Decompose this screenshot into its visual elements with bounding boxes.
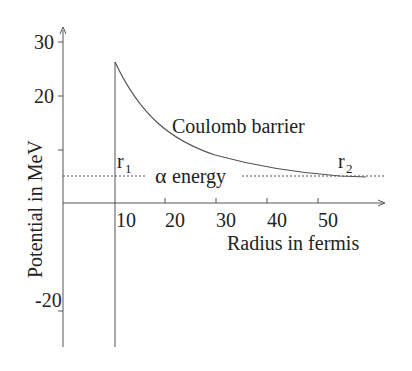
x-axis-title: Radius in fermis: [227, 232, 359, 254]
y-tick-label-30: 30: [34, 31, 54, 53]
y-tick-label-20: 20: [34, 85, 54, 107]
x-tick-label-40: 40: [267, 209, 287, 231]
x-tick-label-10: 10: [116, 209, 136, 231]
alpha-energy-label: energy: [172, 165, 226, 188]
coulomb-barrier-label: Coulomb barrier: [172, 115, 305, 137]
y-tick-label-neg20: -20: [35, 289, 62, 311]
y-axis-title: Potential in MeV: [24, 140, 46, 278]
r2-subscript: 2: [346, 161, 353, 176]
alpha-symbol: α: [155, 163, 167, 188]
x-tick-label-20: 20: [165, 209, 185, 231]
r1-subscript: 1: [125, 161, 132, 176]
x-tick-label-30: 30: [216, 209, 236, 231]
r2-label: r: [338, 150, 345, 172]
potential-diagram: 30 20 -20 10 20 30 40 50 Radius in fermi…: [0, 0, 412, 371]
r1-label: r: [117, 150, 124, 172]
x-tick-label-50: 50: [318, 209, 338, 231]
